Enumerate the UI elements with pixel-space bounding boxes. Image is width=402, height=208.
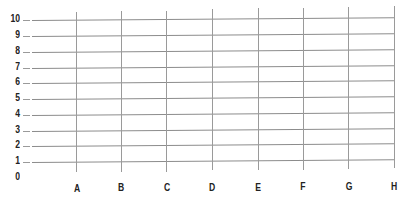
grid-column-line: [121, 11, 122, 172]
x-label-f: F: [298, 180, 309, 192]
x-label-e: E: [253, 181, 264, 193]
x-label-b: B: [116, 181, 127, 193]
y-label-6: 6: [9, 76, 20, 87]
grid-column-line: [348, 7, 349, 169]
y-tick: [23, 162, 30, 163]
x-label-d: D: [207, 181, 218, 193]
y-tick: [23, 146, 30, 147]
y-label-5: 5: [9, 92, 20, 103]
grid-column-line: [212, 9, 213, 170]
y-label-0: 0: [9, 171, 20, 182]
y-tick: [23, 52, 30, 53]
grid-column-line: [258, 8, 259, 170]
y-label-2: 2: [9, 139, 20, 150]
grid-column-line: [303, 8, 304, 170]
x-label-a: A: [72, 182, 83, 194]
y-label-1: 1: [9, 155, 20, 166]
y-tick: [23, 99, 30, 100]
y-tick: [23, 36, 30, 37]
x-label-h: H: [389, 180, 400, 192]
grid-column-line: [76, 12, 77, 172]
y-label-8: 8: [9, 45, 20, 56]
y-tick: [23, 115, 30, 116]
y-label-10: 10: [9, 13, 20, 24]
y-tick: [23, 68, 30, 69]
y-tick: [23, 131, 30, 132]
y-label-9: 9: [9, 29, 20, 40]
grid-column-line: [394, 6, 395, 168]
y-label-3: 3: [9, 124, 20, 135]
x-label-g: G: [344, 180, 355, 192]
y-tick: [23, 20, 30, 21]
x-label-c: C: [162, 181, 173, 193]
grid-column-line: [166, 11, 167, 172]
y-label-7: 7: [9, 61, 20, 72]
y-tick: [23, 83, 30, 84]
y-label-4: 4: [9, 108, 20, 119]
